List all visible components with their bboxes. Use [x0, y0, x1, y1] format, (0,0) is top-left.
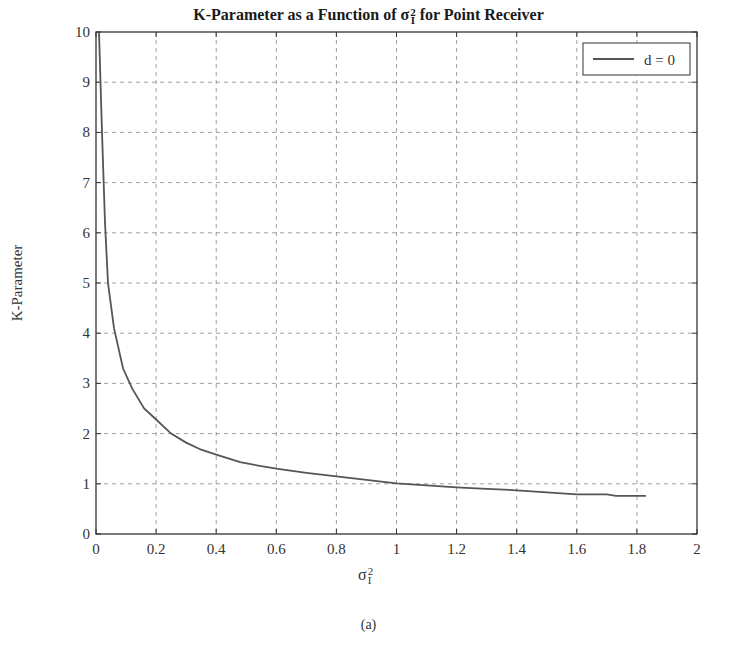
- x-tick-label: 0.2: [147, 541, 166, 557]
- x-tick-label: 0.8: [327, 541, 346, 557]
- x-tick-label: 1.4: [507, 541, 526, 557]
- x-tick-label: 1.2: [447, 541, 466, 557]
- x-tick-label: 0.6: [267, 541, 286, 557]
- x-tick-label: 1.8: [628, 541, 647, 557]
- legend-label: d = 0: [644, 52, 675, 68]
- y-axis-label: K-Parameter: [9, 245, 25, 322]
- x-tick-label: 1.6: [567, 541, 586, 557]
- y-tick-label: 2: [83, 426, 91, 442]
- y-tick-label: 5: [83, 275, 91, 291]
- grid-lines: [96, 32, 697, 534]
- y-tick-label: 7: [83, 175, 91, 191]
- series-line-d0: [99, 32, 646, 496]
- y-tick-label: 8: [83, 124, 91, 140]
- x-axis-label: σ2I: [358, 566, 373, 586]
- y-tick-label: 1: [83, 476, 91, 492]
- y-tick-label: 10: [75, 24, 90, 40]
- x-tick-label: 2: [693, 541, 701, 557]
- y-tick-label: 0: [83, 526, 91, 542]
- figure-caption: (a): [0, 617, 737, 633]
- x-tick-label: 0: [92, 541, 100, 557]
- tick-labels: 00.20.40.60.811.21.41.61.82012345678910: [75, 24, 701, 557]
- y-tick-label: 3: [83, 375, 91, 391]
- x-tick-label: 0.4: [207, 541, 226, 557]
- y-tick-label: 6: [83, 225, 91, 241]
- x-axis-label-symbol: σ: [358, 566, 367, 583]
- x-tick-label: 1: [393, 541, 401, 557]
- y-tick-label: 4: [83, 325, 91, 341]
- y-tick-label: 9: [83, 74, 91, 90]
- legend: d = 0: [583, 43, 690, 75]
- x-axis-label-sub: I: [368, 576, 374, 585]
